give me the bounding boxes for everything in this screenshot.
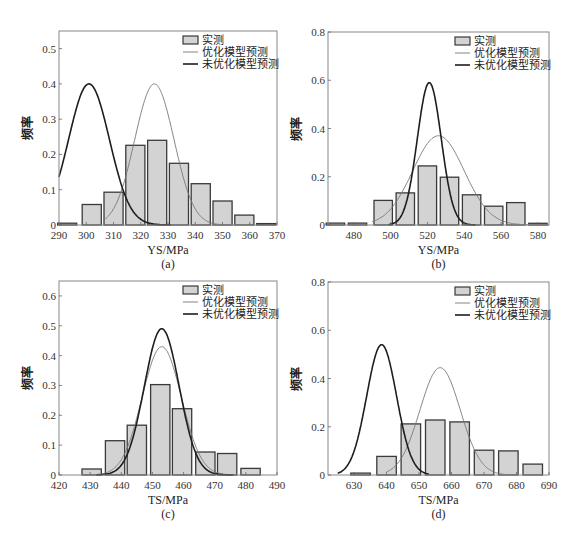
histogram-bar bbox=[235, 215, 254, 225]
legend-swatch-measured bbox=[455, 37, 470, 45]
x-tick-label: 430 bbox=[82, 479, 99, 491]
legend-label: 优化模型预测 bbox=[474, 296, 540, 310]
x-tick-label: 480 bbox=[346, 229, 363, 241]
histogram-bar bbox=[127, 425, 146, 475]
x-tick-label: 350 bbox=[214, 229, 231, 241]
x-tick-label: 290 bbox=[51, 229, 68, 241]
x-tick-label: 490 bbox=[269, 479, 286, 491]
y-tick-label: 0.6 bbox=[311, 74, 325, 86]
y-tick-label: 0.8 bbox=[311, 276, 325, 288]
histogram-bar bbox=[169, 163, 188, 225]
x-tick-label: 690 bbox=[541, 479, 558, 491]
x-tick-label: 460 bbox=[175, 479, 192, 491]
panel-caption: (c) bbox=[161, 507, 174, 521]
x-axis-label: TS/MPa bbox=[418, 493, 459, 507]
x-tick-label: 560 bbox=[493, 229, 510, 241]
y-tick-label: 0.6 bbox=[311, 324, 325, 336]
y-tick-label: 0.2 bbox=[42, 409, 56, 421]
x-tick-label: 650 bbox=[411, 479, 428, 491]
x-tick-label: 470 bbox=[206, 479, 223, 491]
histogram-bar bbox=[241, 468, 260, 475]
x-tick-label: 310 bbox=[105, 229, 122, 241]
y-tick-label: 0.4 bbox=[42, 78, 56, 90]
legend-label: 实测 bbox=[474, 284, 496, 298]
panel-b: 00.20.40.60.8480500520540560580YS/MPa(b)… bbox=[289, 26, 551, 271]
y-tick-label: 0.1 bbox=[42, 439, 56, 451]
x-tick-label: 640 bbox=[378, 479, 395, 491]
x-axis-label: TS/MPa bbox=[148, 493, 189, 507]
y-tick-label: 0.4 bbox=[311, 373, 325, 385]
x-tick-label: 360 bbox=[242, 229, 259, 241]
histogram-bar bbox=[218, 454, 237, 476]
histogram-bar bbox=[82, 205, 101, 226]
figure: 00.10.20.30.40.5290300310320330340350360… bbox=[0, 0, 581, 544]
legend: 实测优化模型预测未优化模型预测 bbox=[455, 284, 551, 322]
y-tick-label: 0.2 bbox=[42, 148, 56, 160]
y-tick-label: 0.1 bbox=[42, 184, 56, 196]
legend: 实测优化模型预测未优化模型预测 bbox=[183, 33, 279, 71]
panel-caption: (d) bbox=[432, 507, 446, 521]
y-tick-label: 0.4 bbox=[311, 123, 325, 135]
x-tick-label: 450 bbox=[144, 479, 161, 491]
y-tick-label: 0 bbox=[320, 469, 326, 481]
histogram-bar bbox=[523, 464, 543, 475]
legend-label: 未优化模型预测 bbox=[202, 57, 279, 71]
y-tick-label: 0.8 bbox=[311, 26, 325, 38]
legend: 实测优化模型预测未优化模型预测 bbox=[183, 283, 279, 321]
histogram-bar bbox=[172, 409, 191, 475]
x-tick-label: 300 bbox=[78, 229, 95, 241]
histogram-bar bbox=[105, 441, 124, 475]
y-axis-label: 频率 bbox=[289, 117, 304, 141]
histogram-bar bbox=[440, 177, 458, 225]
y-axis-label: 频率 bbox=[20, 116, 35, 140]
y-axis-label: 频率 bbox=[20, 366, 35, 390]
legend-label: 实测 bbox=[202, 33, 224, 47]
legend-label: 实测 bbox=[474, 34, 496, 48]
legend: 实测优化模型预测未优化模型预测 bbox=[455, 34, 551, 72]
histogram-bar bbox=[151, 385, 170, 475]
x-tick-label: 480 bbox=[238, 479, 255, 491]
panel-caption: (a) bbox=[161, 257, 174, 271]
x-axis-label: YS/MPa bbox=[418, 243, 460, 257]
x-tick-label: 500 bbox=[382, 229, 399, 241]
x-tick-label: 660 bbox=[443, 479, 460, 491]
x-tick-label: 320 bbox=[133, 229, 150, 241]
legend-label: 优化模型预测 bbox=[202, 295, 268, 309]
panel-caption: (b) bbox=[432, 257, 446, 271]
histogram-bar bbox=[418, 166, 436, 225]
legend-label: 未优化模型预测 bbox=[474, 308, 551, 322]
panel-a: 00.10.20.30.40.5290300310320330340350360… bbox=[20, 31, 286, 271]
panel-c: 00.10.20.30.40.50.6420430440450460470480… bbox=[20, 281, 286, 521]
y-tick-label: 0 bbox=[320, 219, 326, 231]
legend-swatch-measured bbox=[455, 287, 470, 295]
x-tick-label: 520 bbox=[419, 229, 436, 241]
legend-label: 未优化模型预测 bbox=[474, 58, 551, 72]
histogram-bar bbox=[374, 200, 392, 225]
histogram-bar bbox=[426, 420, 446, 475]
histogram-bar bbox=[191, 184, 210, 225]
x-tick-label: 680 bbox=[508, 479, 525, 491]
legend-label: 实测 bbox=[202, 283, 224, 297]
y-tick-label: 0.3 bbox=[42, 113, 56, 125]
x-tick-label: 630 bbox=[346, 479, 363, 491]
x-axis-label: YS/MPa bbox=[147, 243, 189, 257]
y-tick-label: 0.5 bbox=[42, 43, 56, 55]
x-tick-label: 420 bbox=[51, 479, 68, 491]
x-tick-label: 340 bbox=[187, 229, 204, 241]
legend-label: 优化模型预测 bbox=[202, 45, 268, 59]
y-tick-label: 0.6 bbox=[42, 290, 56, 302]
y-tick-label: 0.2 bbox=[311, 171, 325, 183]
y-tick-label: 0.2 bbox=[311, 421, 325, 433]
x-tick-label: 580 bbox=[530, 229, 547, 241]
y-axis-label: 频率 bbox=[289, 367, 304, 391]
histogram-bar bbox=[213, 201, 232, 225]
y-tick-label: 0.4 bbox=[42, 350, 56, 362]
x-tick-label: 330 bbox=[160, 229, 177, 241]
x-tick-label: 540 bbox=[456, 229, 473, 241]
y-tick-label: 0.5 bbox=[42, 320, 56, 332]
legend-label: 未优化模型预测 bbox=[202, 307, 279, 321]
histogram-bar bbox=[474, 450, 494, 475]
histogram-bar bbox=[462, 195, 480, 225]
histogram-bar bbox=[499, 451, 518, 475]
legend-label: 优化模型预测 bbox=[474, 46, 540, 60]
